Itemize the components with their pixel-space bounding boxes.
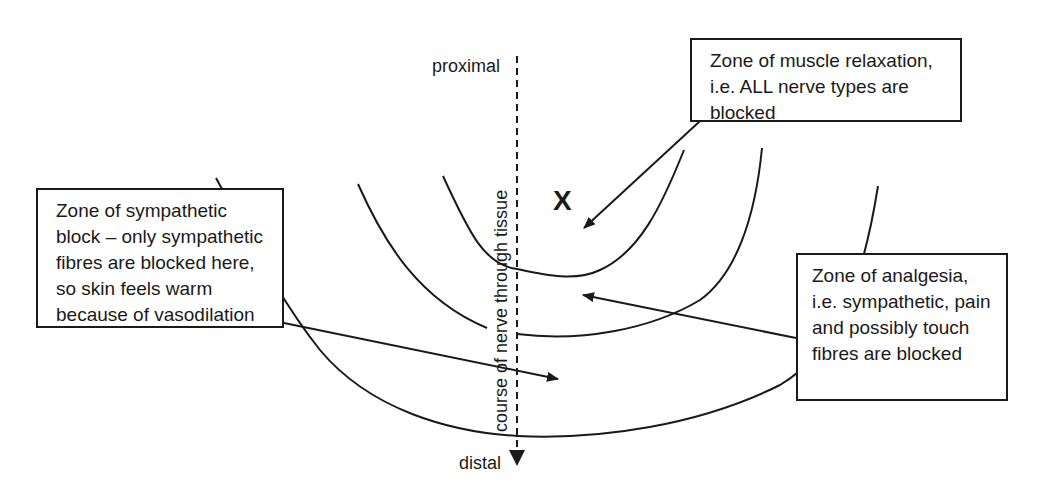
sympathetic-block-text: Zone of sympathetic block – only sympath… bbox=[56, 200, 263, 325]
proximal-label: proximal bbox=[432, 56, 500, 76]
muscle-relaxation-text: Zone of muscle relaxation, i.e. ALL nerv… bbox=[710, 50, 933, 123]
nerve-course-label: course of nerve through tissue bbox=[491, 190, 511, 432]
muscle-relaxation-box: Zone of muscle relaxation, i.e. ALL nerv… bbox=[690, 38, 962, 122]
sympathetic-block-box: Zone of sympathetic block – only sympath… bbox=[36, 188, 284, 328]
injection-site-marker: X bbox=[553, 187, 572, 215]
analgesia-text: Zone of analgesia, i.e. sympathetic, pai… bbox=[812, 265, 990, 364]
analgesia-box: Zone of analgesia, i.e. sympathetic, pai… bbox=[796, 253, 1008, 401]
arrow-muscle-relaxation bbox=[584, 110, 712, 228]
distal-label: distal bbox=[459, 453, 501, 473]
axis-arrowhead-icon bbox=[509, 450, 525, 466]
zone-curve-outer bbox=[216, 178, 878, 437]
zone-curve-middle bbox=[358, 148, 762, 336]
